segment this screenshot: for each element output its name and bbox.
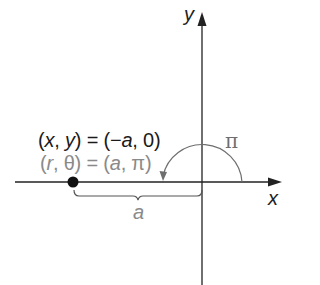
y-axis xyxy=(198,12,207,285)
distance-brace xyxy=(74,190,202,200)
cartesian-coordinates-label: (x, y) = (−a, 0) xyxy=(38,130,160,150)
angle-pi-label: π xyxy=(225,131,238,151)
y-axis-arrowhead-icon xyxy=(198,12,207,26)
x-axis-arrowhead-icon xyxy=(268,178,282,187)
point-marker xyxy=(68,177,79,188)
x-axis-label: x xyxy=(268,188,278,208)
arc-arrowhead-icon xyxy=(160,171,168,181)
polar-coordinates-label: (r, θ) = (a, π) xyxy=(40,153,151,173)
y-axis-label: y xyxy=(184,4,194,24)
distance-a-label: a xyxy=(133,202,144,222)
